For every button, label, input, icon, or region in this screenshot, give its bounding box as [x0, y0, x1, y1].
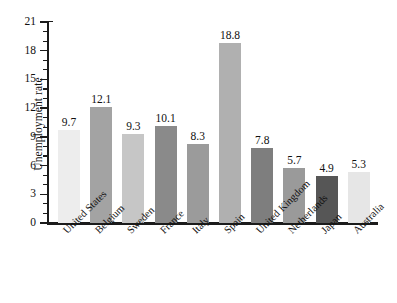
y-tick-minor	[43, 88, 48, 89]
y-tick-minor	[43, 127, 48, 128]
y-tick-minor	[43, 69, 48, 70]
y-tick-minor	[43, 203, 48, 204]
bar-value-label: 18.8	[211, 29, 249, 41]
y-tick-label: 12	[0, 102, 36, 112]
bar	[219, 43, 241, 223]
y-tick-label: 15	[0, 73, 36, 83]
y-axis-top-cap	[47, 21, 53, 22]
y-tick-major	[40, 50, 48, 51]
bar-value-label: 10.1	[147, 112, 185, 124]
y-tick-minor	[43, 155, 48, 156]
bar	[58, 130, 80, 223]
y-tick-major	[40, 79, 48, 80]
bar-value-label: 9.7	[50, 116, 88, 128]
y-tick-major	[40, 165, 48, 166]
y-tick-label: 9	[0, 131, 36, 141]
y-tick-major	[40, 222, 48, 223]
bar-value-label: 12.1	[82, 93, 120, 105]
y-tick-label: 18	[0, 45, 36, 55]
y-tick-major	[40, 136, 48, 137]
y-tick-minor	[43, 31, 48, 32]
y-tick-minor	[43, 41, 48, 42]
bar-chart: Unemployment rate 036912151821 9.712.19.…	[0, 0, 397, 303]
bar	[155, 126, 177, 223]
bar	[187, 144, 209, 223]
y-tick-minor	[43, 175, 48, 176]
y-tick-minor	[43, 60, 48, 61]
y-tick-minor	[43, 98, 48, 99]
y-tick-major	[40, 194, 48, 195]
y-tick-label: 21	[0, 16, 36, 26]
y-tick-label: 6	[0, 160, 36, 170]
y-tick-minor	[43, 213, 48, 214]
y-tick-label: 3	[0, 188, 36, 198]
y-tick-label: 0	[0, 217, 36, 227]
bar-value-label: 7.8	[243, 134, 281, 146]
y-tick-minor	[43, 146, 48, 147]
y-tick-minor	[43, 117, 48, 118]
y-tick-minor	[43, 184, 48, 185]
y-tick-major	[40, 107, 48, 108]
bar-value-label: 5.3	[340, 158, 378, 170]
bar-value-label: 8.3	[179, 130, 217, 142]
